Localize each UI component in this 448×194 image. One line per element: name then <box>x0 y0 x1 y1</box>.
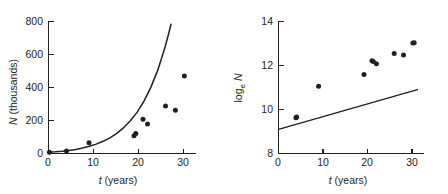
right-x-ticks <box>279 149 413 154</box>
right-x-tick-30: 30 <box>406 156 418 168</box>
right-x-axis-title: t (years) <box>329 174 368 186</box>
left-x-axis-unit: (years) <box>105 174 138 186</box>
data-point <box>141 117 146 122</box>
data-point <box>133 131 138 136</box>
right-y-ticks <box>279 22 284 110</box>
right-x-tick-0: 0 <box>275 156 281 168</box>
data-point <box>294 114 299 119</box>
right-y-axis-title: loge N <box>232 73 247 102</box>
left-y-axis-title: N (thousands) <box>7 59 19 125</box>
data-point <box>163 103 168 108</box>
data-point <box>64 148 69 153</box>
left-x-tick-10: 10 <box>87 156 99 168</box>
right-y-tick-10: 10 <box>261 103 273 115</box>
data-point <box>182 73 187 78</box>
figure-container: N (thousands) 800 600 400 200 0 <box>0 0 448 194</box>
left-y-tick-labels: 800 600 400 200 0 <box>25 15 43 159</box>
data-point <box>87 140 92 145</box>
right-y-tick-12: 12 <box>261 59 273 71</box>
left-axis-lines <box>49 21 197 154</box>
right-chart-svg: loge N 14 12 10 8 <box>224 0 448 194</box>
chart-panel-right: loge N 14 12 10 8 <box>224 0 448 194</box>
left-x-tick-20: 20 <box>132 156 144 168</box>
data-point <box>401 52 406 57</box>
left-x-axis-title: t (years) <box>99 174 138 186</box>
left-y-tick-400: 400 <box>25 81 43 93</box>
left-chart-svg: N (thousands) 800 600 400 200 0 <box>0 0 224 194</box>
left-y-tick-200: 200 <box>25 114 43 126</box>
right-x-axis-unit: (years) <box>335 174 368 186</box>
data-point <box>362 72 367 77</box>
data-point <box>374 61 379 66</box>
right-x-tick-10: 10 <box>317 156 329 168</box>
data-point <box>412 40 417 45</box>
right-axis-lines <box>279 21 425 154</box>
data-point <box>173 108 178 113</box>
chart-panel-left: N (thousands) 800 600 400 200 0 <box>0 0 224 194</box>
left-y-axis-unit: (thousands) <box>7 59 19 114</box>
left-x-tick-0: 0 <box>45 156 51 168</box>
right-y-axis-symbol: N <box>232 73 244 81</box>
left-data-points <box>47 73 187 154</box>
left-x-tick-labels: 0 10 20 30 <box>45 156 189 168</box>
right-y-tick-8: 8 <box>267 147 273 159</box>
left-fit-curve <box>49 24 172 152</box>
data-point <box>316 84 321 89</box>
right-data-points <box>293 40 416 120</box>
left-x-tick-30: 30 <box>177 156 189 168</box>
right-y-tick-14: 14 <box>261 15 273 27</box>
data-point <box>47 150 52 155</box>
left-y-tick-0: 0 <box>37 147 43 159</box>
left-y-ticks <box>49 22 54 121</box>
right-y-tick-labels: 14 12 10 8 <box>261 15 273 159</box>
right-x-tick-20: 20 <box>361 156 373 168</box>
left-y-tick-600: 600 <box>25 48 43 60</box>
right-y-axis-base: log <box>232 88 244 102</box>
data-point <box>145 122 150 127</box>
right-fit-line <box>279 90 418 130</box>
right-x-tick-labels: 0 10 20 30 <box>275 156 418 168</box>
data-point <box>392 51 397 56</box>
left-y-tick-800: 800 <box>25 15 43 27</box>
